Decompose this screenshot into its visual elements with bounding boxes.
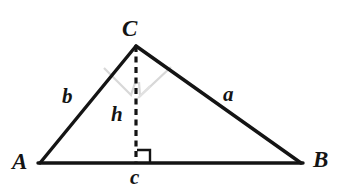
side-label-b: b	[62, 86, 73, 107]
altitude-label-h: h	[111, 104, 123, 125]
triangle-diagram: A B C a b c h	[0, 0, 337, 191]
side-a-line	[136, 46, 301, 163]
vertex-label-c: C	[122, 17, 137, 40]
side-label-c: c	[130, 167, 139, 188]
side-label-a: a	[223, 84, 234, 105]
vertex-label-b: B	[313, 148, 328, 171]
right-angle-marker	[137, 150, 150, 163]
vertex-label-a: A	[12, 150, 27, 173]
triangle-diagram-canvas	[0, 0, 337, 191]
